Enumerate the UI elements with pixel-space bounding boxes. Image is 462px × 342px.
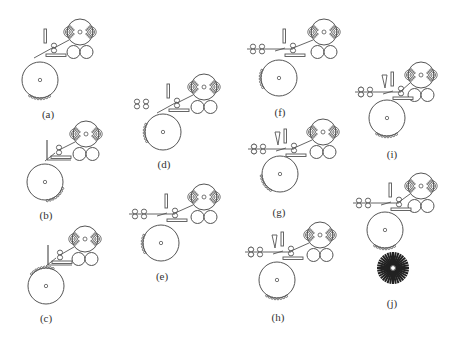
card-tooth-icon — [35, 269, 37, 271]
support-roll-icon — [86, 148, 99, 161]
feed-roll-icon — [257, 252, 262, 257]
panel-label-f: (f) — [275, 106, 286, 118]
card-tooth-icon — [262, 181, 264, 183]
feed-plate-icon — [46, 54, 66, 57]
card-tooth-icon — [390, 135, 392, 137]
card-tooth-icon — [30, 273, 32, 275]
support-roll-icon — [67, 46, 80, 59]
drum-axle-icon — [44, 284, 47, 287]
spindle-icon — [84, 132, 88, 136]
support-roll-icon — [307, 249, 320, 262]
feed-roll-icon — [356, 198, 361, 203]
card-tooth-icon — [46, 266, 48, 268]
card-tooth-icon — [146, 140, 148, 142]
card-tooth-icon — [60, 190, 62, 192]
card-tooth-icon — [262, 86, 264, 88]
card-tooth-icon — [141, 240, 143, 242]
support-roll-icon — [421, 200, 434, 213]
card-tooth-icon — [49, 267, 51, 269]
drum-axle-icon — [383, 228, 386, 231]
card-tooth-icon — [52, 198, 54, 200]
card-tooth-icon — [260, 81, 262, 83]
guide-bar-icon — [44, 29, 47, 43]
feed-plate-icon — [52, 261, 72, 264]
feed-roll-icon — [248, 247, 253, 252]
feed-roll-icon — [51, 48, 56, 53]
feed-roll-icon — [132, 209, 137, 214]
card-tooth-icon — [280, 297, 282, 299]
support-roll-icon — [72, 253, 85, 266]
card-tooth-icon — [54, 196, 56, 198]
card-tooth-icon — [46, 96, 48, 98]
guide-bar-icon — [283, 29, 286, 43]
card-tooth-icon — [143, 132, 145, 134]
feed-roll-icon — [356, 203, 361, 208]
drum-axle-icon — [277, 76, 280, 79]
card-tooth-icon — [142, 237, 144, 239]
panel-b — [27, 121, 102, 202]
feed-roll-icon — [134, 104, 139, 109]
card-tooth-icon — [31, 96, 33, 98]
drum-axle-icon — [161, 130, 164, 133]
card-tooth-icon — [263, 183, 265, 185]
feed-roll-icon — [141, 209, 146, 214]
feed-roll-icon — [367, 92, 372, 97]
card-tooth-icon — [46, 200, 48, 202]
feed-plate-icon — [169, 109, 189, 112]
support-roll-icon — [310, 146, 323, 159]
spindle-icon — [321, 130, 325, 134]
card-tooth-icon — [143, 234, 145, 236]
card-tooth-icon — [260, 175, 262, 177]
card-tooth-icon — [40, 267, 42, 269]
spindle-icon — [318, 233, 322, 237]
feed-roll-icon — [132, 214, 137, 219]
feed-roll-icon — [365, 203, 370, 208]
card-tooth-icon — [270, 189, 272, 191]
feed-plate-icon — [286, 154, 306, 157]
feed-roll-icon — [367, 87, 372, 92]
card-tooth-icon — [62, 187, 64, 189]
support-roll-icon — [323, 146, 336, 159]
support-roll-icon — [191, 211, 204, 224]
support-roll-icon — [324, 46, 337, 59]
card-tooth-icon — [33, 271, 35, 273]
card-tooth-icon — [277, 298, 279, 300]
drum-axle-icon — [43, 180, 46, 183]
card-tooth-icon — [267, 188, 269, 190]
card-tooth-icon — [393, 245, 395, 247]
feed-roll-icon — [134, 99, 139, 104]
card-tooth-icon — [40, 98, 42, 100]
panel-e — [129, 184, 220, 261]
panel-a — [22, 19, 96, 100]
card-tooth-icon — [374, 245, 376, 247]
spindle-icon — [419, 73, 423, 77]
feed-roll-icon — [57, 255, 62, 260]
card-tooth-icon — [271, 297, 273, 299]
card-tooth-icon — [285, 295, 287, 297]
cone-guide-icon — [275, 132, 280, 145]
spindle-icon — [83, 237, 87, 241]
feed-roll-icon — [398, 86, 403, 91]
card-tooth-icon — [48, 95, 50, 97]
fiber-web-line — [293, 40, 313, 48]
card-tooth-icon — [388, 247, 390, 249]
feed-roll-icon — [250, 44, 255, 49]
panel-h — [245, 222, 336, 300]
guide-line — [275, 48, 285, 51]
card-tooth-icon — [376, 133, 378, 135]
feed-roll-icon — [248, 252, 253, 257]
feed-roll-icon — [174, 103, 179, 108]
feed-roll-icon — [260, 149, 265, 154]
support-roll-icon — [311, 46, 324, 59]
card-tooth-icon — [144, 126, 146, 128]
spindle-icon — [322, 30, 326, 34]
card-tooth-icon — [393, 134, 395, 136]
card-tooth-icon — [376, 246, 378, 248]
cone-guide-icon — [272, 235, 277, 248]
support-roll-icon — [204, 211, 217, 224]
drum-axle-icon — [38, 78, 41, 81]
panel-j — [353, 173, 437, 284]
support-roll-icon — [320, 249, 333, 262]
card-tooth-icon — [378, 134, 380, 136]
feed-roll-icon — [143, 104, 148, 109]
